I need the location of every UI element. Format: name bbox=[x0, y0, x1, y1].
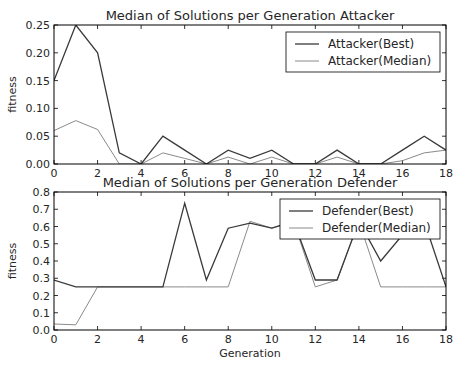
legend-label: Attacker(Best) bbox=[328, 37, 414, 51]
x-tick-label: 16 bbox=[395, 167, 409, 180]
legend-label: Defender(Median) bbox=[322, 221, 431, 235]
y-tick-label: 0.7 bbox=[33, 203, 51, 216]
x-tick-label: 0 bbox=[51, 333, 58, 346]
x-tick-label: 4 bbox=[138, 333, 145, 346]
y-tick-label: 0.20 bbox=[26, 47, 51, 60]
x-tick-label: 14 bbox=[352, 333, 366, 346]
y-tick-label: 0.8 bbox=[33, 186, 51, 199]
x-tick-label: 0 bbox=[51, 167, 58, 180]
chart-title: Median of Solutions per Generation Attac… bbox=[106, 8, 395, 23]
y-tick-label: 0.0 bbox=[33, 324, 51, 337]
x-tick-label: 2 bbox=[94, 333, 101, 346]
x-tick-label: 2 bbox=[94, 167, 101, 180]
figure: Median of Solutions per Generation Attac… bbox=[0, 0, 464, 370]
x-tick-label: 12 bbox=[308, 333, 322, 346]
x-tick-label: 18 bbox=[439, 333, 453, 346]
x-tick-label: 16 bbox=[395, 333, 409, 346]
y-tick-label: 0.6 bbox=[33, 221, 51, 234]
x-tick-label: 18 bbox=[439, 167, 453, 180]
attacker-chart: Median of Solutions per Generation Attac… bbox=[6, 8, 453, 180]
defender-chart: Median of Solutions per Generation Defen… bbox=[6, 175, 453, 360]
x-tick-label: 10 bbox=[265, 333, 279, 346]
legend-label: Attacker(Median) bbox=[328, 54, 431, 68]
y-tick-label: 0.15 bbox=[26, 75, 51, 88]
y-tick-label: 0.3 bbox=[33, 272, 51, 285]
y-tick-label: 0.05 bbox=[26, 130, 51, 143]
x-axis-label: Generation bbox=[219, 347, 280, 360]
legend-label: Defender(Best) bbox=[322, 204, 414, 218]
y-tick-label: 0.4 bbox=[33, 255, 51, 268]
series-line bbox=[54, 121, 446, 164]
chart-title: Median of Solutions per Generation Defen… bbox=[103, 175, 398, 190]
y-axis-label: fitness bbox=[6, 76, 19, 113]
y-tick-label: 0.10 bbox=[26, 102, 51, 115]
y-tick-label: 0.2 bbox=[33, 290, 51, 303]
y-tick-label: 0.5 bbox=[33, 238, 51, 251]
y-tick-label: 0.00 bbox=[26, 158, 51, 171]
x-tick-label: 6 bbox=[181, 333, 188, 346]
legend: Defender(Best)Defender(Median) bbox=[280, 199, 440, 239]
y-tick-label: 0.25 bbox=[26, 19, 51, 32]
y-axis-label: fitness bbox=[6, 243, 19, 280]
x-tick-label: 8 bbox=[225, 333, 232, 346]
legend: Attacker(Best)Attacker(Median) bbox=[286, 32, 440, 72]
y-tick-label: 0.1 bbox=[33, 307, 51, 320]
